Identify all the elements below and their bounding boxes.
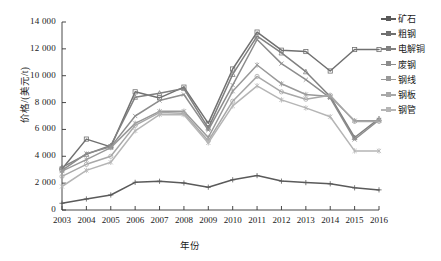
legend-item[interactable]: 粗钢 — [381, 26, 441, 41]
legend-marker-icon — [381, 90, 396, 99]
legend-item[interactable]: 电解铜 — [381, 41, 441, 56]
legend-marker-icon — [381, 105, 396, 114]
y-axis-tick-label: 14 000 — [14, 16, 56, 26]
legend-label: 废钢 — [398, 58, 416, 71]
y-axis-tick-label: 0 — [14, 204, 56, 214]
legend-item[interactable]: 钢板 — [381, 87, 441, 102]
legend-item[interactable]: 废钢 — [381, 57, 441, 72]
legend-marker-icon — [381, 14, 396, 23]
legend-marker-icon — [381, 60, 396, 69]
y-axis-tick-label: 6 000 — [14, 123, 56, 133]
y-axis-tick-label: 10 000 — [14, 70, 56, 80]
y-axis-tick-label: 12 000 — [14, 43, 56, 53]
price-trend-line-chart: 价格/(美元/t) 年份 矿石粗钢电解铜废钢钢线钢板钢管 02 0004 000… — [0, 0, 441, 261]
legend-label: 钢管 — [398, 103, 416, 116]
legend-item[interactable]: 钢线 — [381, 72, 441, 87]
legend-label: 矿石 — [398, 12, 416, 25]
legend-label: 电解铜 — [398, 42, 425, 55]
legend-item[interactable]: 矿石 — [381, 11, 441, 26]
y-axis-tick-label: 4 000 — [14, 150, 56, 160]
legend-label: 钢线 — [398, 73, 416, 86]
chart-legend: 矿石粗钢电解铜废钢钢线钢板钢管 — [381, 11, 441, 117]
legend-marker-icon — [381, 29, 396, 38]
x-axis-tick-label: 2016 — [364, 215, 394, 225]
y-axis-tick-label: 2 000 — [14, 177, 56, 187]
legend-marker-icon — [381, 75, 396, 84]
legend-label: 钢板 — [398, 88, 416, 101]
y-axis-tick-label: 8 000 — [14, 97, 56, 107]
legend-item[interactable]: 钢管 — [381, 102, 441, 117]
legend-marker-icon — [381, 44, 396, 53]
legend-label: 粗钢 — [398, 27, 416, 40]
